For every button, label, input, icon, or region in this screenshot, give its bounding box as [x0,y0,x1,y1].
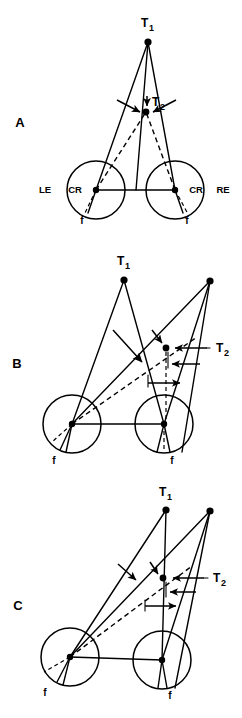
panel-b: B T 1 T 2 f f [12,254,229,466]
left-fovea-axis-b [60,424,72,450]
right-fovea-label-a: f [185,215,189,226]
right-eye-label-a: RE [216,184,229,195]
t2-subscript-a: 2 [160,102,165,112]
right-cr-point-a [172,187,178,193]
left-fovea-label-b: f [52,455,56,466]
t1-label-c: T [159,485,167,499]
right-visual-axis-t1-a [148,42,175,190]
panel-letter-c: C [13,598,23,613]
right-cr-point-b [161,421,167,427]
left-axis-to-aux-c [70,511,210,657]
right-axis-to-aux-c [162,511,210,660]
t2-subscript-b: 2 [224,348,229,358]
t2-point-b [163,345,170,352]
midline-a [136,42,148,190]
t1-label-a: T [141,16,149,30]
panel-letter-b: B [12,356,21,371]
figure-binocular-convergence-diagram: A T 1 T 2 LE CR CR RE f f [0,0,242,718]
aux-to-right-lower-c [175,511,210,688]
right-fovea-axis-b [157,424,164,452]
t2-label-b: T [216,341,224,355]
right-axis-to-aux-b [164,281,210,424]
interocular-axis-c [70,657,162,660]
left-angle-arrow-b [113,330,142,362]
right-dashed-to-t2-a [146,112,175,190]
t1-point-b [120,276,127,283]
left-cr-point-b [69,421,75,427]
diagram-canvas: A T 1 T 2 LE CR CR RE f f [0,0,242,718]
t1-point-a [144,38,151,45]
aux-point-b [206,277,213,284]
right-fovea-axis2-b [164,424,170,452]
right-fovea-axis2-c [162,660,167,688]
left-eye-label-a: LE [39,184,51,195]
t1-subscript-c: 1 [167,492,172,502]
right-fovea-axis-c [158,660,162,688]
left-fovea-label-c: f [43,687,47,698]
left-visual-axis-t1-b [72,280,124,424]
right-fovea-label-c: f [168,690,172,701]
panel-letter-a: A [15,115,25,130]
left-visual-axis-t1-c [70,510,166,657]
left-cr-label-a: CR [68,184,82,195]
t1-subscript-a: 1 [149,23,154,33]
t2-label-c: T [213,571,221,585]
t2-point-a [143,109,150,116]
left-visual-axis-t1-a [96,42,148,190]
left-fovea-axis2-b [66,424,72,452]
aux-point-c [206,507,213,514]
t1-label-b: T [117,254,125,268]
panel-a: A T 1 T 2 LE CR CR RE f f [15,16,229,226]
t2-label-a: T [152,95,160,109]
t2-point-c [160,575,167,582]
left-dashed-to-t2-c [70,566,192,657]
left-axis-to-aux-b [72,281,210,424]
left-cr-point-c [67,654,73,660]
right-cr-label-a: CR [189,184,203,195]
right-cr-point-c [159,657,165,663]
t1-subscript-b: 1 [125,261,130,271]
left-disparity-arrow-a [117,100,140,112]
t1-point-c [162,506,169,513]
left-cr-point-a [93,187,99,193]
right-fovea-label-b: f [170,455,174,466]
left-fovea-axis2-c [63,657,70,685]
panel-c: C T 1 T 2 f f [13,485,226,701]
t2-subscript-c: 2 [221,578,226,588]
left-angle-arrow1-c [118,564,136,580]
